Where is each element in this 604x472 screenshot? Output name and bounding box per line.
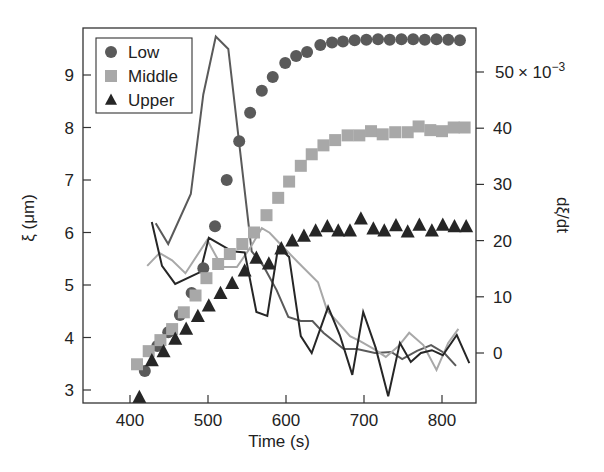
- derivative-lines: [147, 37, 469, 397]
- triangle-marker: [320, 219, 334, 232]
- triangle-marker: [225, 276, 239, 289]
- circle-marker: [407, 33, 419, 45]
- legend: LowMiddleUpper: [96, 38, 192, 113]
- square-marker: [353, 129, 365, 141]
- triangle-marker: [436, 217, 450, 230]
- square-marker: [212, 258, 224, 270]
- triangle-marker: [459, 219, 473, 232]
- y2-tick-label: 0: [493, 344, 502, 363]
- triangle-marker: [179, 321, 193, 334]
- triangle-marker: [297, 228, 311, 241]
- square-marker: [377, 128, 389, 140]
- y-tick-label: 8: [65, 119, 74, 138]
- square-marker: [154, 334, 166, 346]
- triangle-marker: [132, 390, 146, 403]
- square-marker: [248, 227, 260, 239]
- circle-marker: [442, 34, 454, 46]
- derivative-line: [152, 222, 470, 396]
- square-marker: [436, 125, 448, 137]
- square-marker: [317, 139, 329, 151]
- x-tick-label: 500: [194, 411, 222, 430]
- circle-marker: [326, 36, 338, 48]
- square-marker: [283, 176, 295, 188]
- square-marker: [178, 306, 190, 318]
- x-axis-title: Time (s): [248, 432, 310, 451]
- y2-tick-label: 10: [493, 288, 512, 307]
- triangle-marker: [412, 217, 426, 230]
- x-tick-label: 700: [350, 411, 378, 430]
- square-marker: [190, 290, 202, 302]
- square-marker: [105, 70, 117, 82]
- x-tick-label: 600: [272, 411, 300, 430]
- triangle-marker: [354, 211, 368, 224]
- circle-marker: [349, 34, 361, 46]
- square-marker: [131, 358, 143, 370]
- y2-multiplier: 50× 10−3: [495, 60, 565, 82]
- y-axis-ticks: 3456789: [65, 66, 91, 400]
- circle-marker: [256, 85, 268, 97]
- triangle-marker: [389, 218, 403, 231]
- circle-marker: [431, 33, 443, 45]
- y2-axis-ticks: 010203040: [476, 72, 512, 363]
- square-marker: [448, 122, 460, 134]
- square-marker: [261, 209, 273, 221]
- circle-marker: [419, 34, 431, 46]
- y-tick-label: 6: [65, 224, 74, 243]
- circle-marker: [384, 34, 396, 46]
- circle-marker: [209, 220, 221, 232]
- square-marker: [365, 125, 377, 137]
- circle-marker: [233, 135, 245, 147]
- y-tick-label: 7: [65, 171, 74, 190]
- circle-marker: [454, 34, 466, 46]
- triangle-marker: [262, 256, 276, 269]
- circle-marker: [360, 34, 372, 46]
- triangle-marker: [343, 223, 357, 236]
- square-marker: [224, 248, 236, 260]
- y-tick-label: 5: [65, 276, 74, 295]
- y-tick-label: 4: [65, 329, 74, 348]
- legend-label: Upper: [128, 91, 175, 110]
- triangle-marker: [274, 241, 288, 254]
- square-marker: [413, 120, 425, 132]
- triangle-marker: [202, 298, 216, 311]
- square-marker: [200, 272, 212, 284]
- y2-tick-label: 40: [493, 119, 512, 138]
- square-marker: [306, 148, 318, 160]
- y-tick-label: 9: [65, 66, 74, 85]
- circle-marker: [301, 46, 313, 58]
- triangle-marker: [447, 219, 461, 232]
- legend-label: Low: [128, 43, 160, 62]
- circle-marker: [372, 33, 384, 45]
- x-tick-label: 800: [428, 411, 456, 430]
- circle-marker: [290, 50, 302, 62]
- y2-top-tick-label: 50× 10−3: [495, 60, 565, 82]
- x-tick-label: 400: [116, 411, 144, 430]
- triangle-marker: [309, 223, 323, 236]
- square-marker: [459, 122, 471, 134]
- circle-marker: [221, 174, 233, 186]
- square-marker: [402, 126, 414, 138]
- triangle-marker: [238, 263, 252, 276]
- triangle-marker: [285, 233, 299, 246]
- square-marker: [295, 160, 307, 172]
- square-marker: [342, 129, 354, 141]
- y2-axis-title: dξ/dt: [553, 197, 572, 233]
- chart: 400500600700800 3456789 010203040 Time (…: [0, 0, 604, 472]
- circle-marker: [395, 33, 407, 45]
- triangle-marker: [213, 286, 227, 299]
- circle-marker: [314, 39, 326, 51]
- square-marker: [389, 126, 401, 138]
- x-axis-ticks: 400500600700800: [116, 395, 456, 430]
- square-marker: [236, 238, 248, 250]
- square-marker: [329, 134, 341, 146]
- circle-marker: [337, 35, 349, 47]
- circle-marker: [244, 107, 256, 119]
- triangle-marker: [377, 223, 391, 236]
- circle-marker: [105, 46, 117, 58]
- square-marker: [272, 192, 284, 204]
- y2-tick-label: 20: [493, 232, 512, 251]
- square-marker: [166, 323, 178, 335]
- square-marker: [424, 124, 436, 136]
- y2-tick-label: 30: [493, 175, 512, 194]
- legend-label: Middle: [128, 67, 178, 86]
